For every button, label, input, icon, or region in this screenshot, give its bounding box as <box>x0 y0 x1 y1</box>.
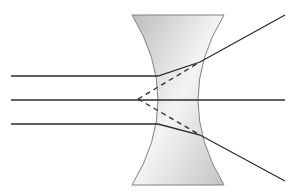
lens-diagram <box>0 0 296 195</box>
